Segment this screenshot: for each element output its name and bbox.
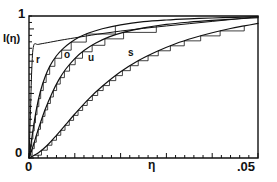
y-axis-zero-tick-label: 0 (15, 146, 22, 159)
curve-label-u: u (88, 53, 94, 63)
x-axis-max-tick-label: .05 (237, 160, 255, 173)
curve-label-o: o (64, 50, 70, 60)
x-axis-label: η (148, 159, 155, 171)
curve-label-r: r (36, 55, 40, 65)
staircase-s (34, 26, 244, 155)
y-axis-top-tick-label: 1 (18, 7, 25, 20)
axis-frame (29, 16, 258, 158)
staircase-u (30, 26, 156, 155)
curve-r (29, 17, 258, 158)
y-axis-label: I(η) (3, 33, 20, 44)
curve-u (29, 18, 258, 158)
x-axis-zero-tick-label: 0 (25, 160, 32, 173)
curve-group (29, 17, 258, 158)
curve-label-s: s (128, 48, 134, 58)
curve-o (29, 17, 258, 158)
plot-canvas (0, 0, 277, 182)
curve-s (29, 23, 258, 158)
x-axis-ticks (29, 153, 258, 158)
figure-container: I(η) 1 0 0 .05 η r o u s (0, 0, 277, 182)
axis-group (29, 16, 258, 158)
